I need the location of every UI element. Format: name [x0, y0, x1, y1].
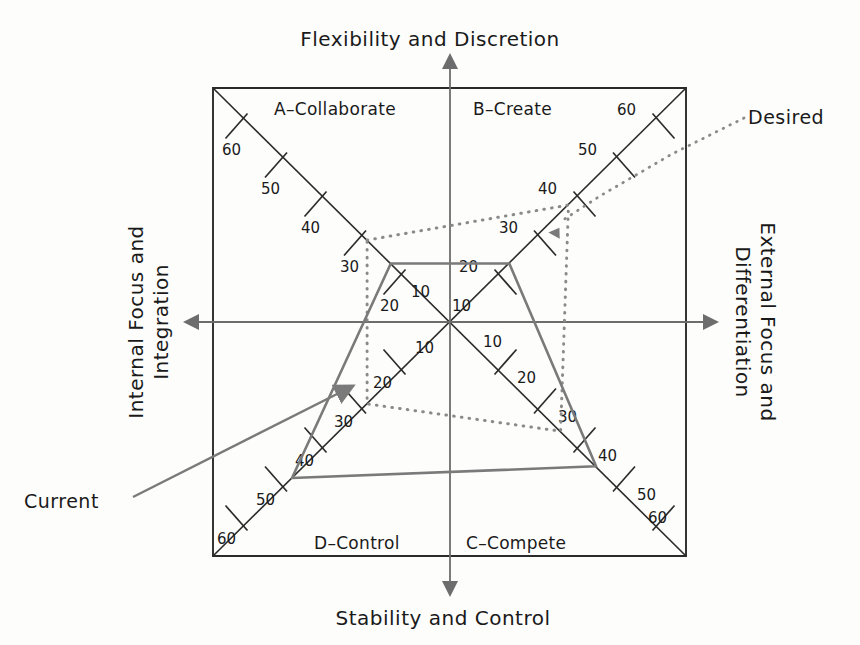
tick-label: 60	[217, 530, 236, 548]
tick-label: 60	[222, 141, 241, 159]
tick-label: 40	[538, 180, 557, 198]
tick-label: 10	[483, 333, 502, 351]
axis-title-right-line1: External Focus and	[756, 222, 780, 421]
tick-label: 50	[637, 486, 656, 504]
quadrant-label-c-compete: C–Compete	[466, 533, 566, 553]
chart-canvas: 60 50 40 30 20 10 60 50 40 30 20 10 10 2…	[0, 0, 860, 645]
legend-current: Current	[24, 390, 345, 512]
series-current-polygon	[292, 264, 596, 479]
axis-title-right: External Focus and Differentiation	[731, 222, 780, 421]
axis-title-left: Internal Focus and Integration	[124, 225, 173, 419]
tick-label: 50	[578, 141, 597, 159]
competing-values-radar-chart: 60 50 40 30 20 10 60 50 40 30 20 10 10 2…	[0, 0, 860, 645]
legend-current-leader-line	[133, 390, 345, 497]
tick-labels-c-compete: 10 20 30 40 50 60	[483, 333, 667, 527]
axis-title-left-line1: Internal Focus and	[124, 225, 148, 419]
tick-label: 20	[380, 297, 399, 315]
tick-label: 10	[411, 283, 430, 301]
quadrant-label-a-collaborate: A–Collaborate	[274, 99, 396, 119]
axis-title-top: Flexibility and Discretion	[300, 27, 560, 51]
tick-label: 10	[415, 339, 434, 357]
axis-title-right-line2: Differentiation	[731, 246, 755, 398]
axis-title-left-line2: Integration	[149, 264, 173, 380]
tick-label: 30	[499, 219, 518, 237]
legend-label-current: Current	[24, 490, 99, 512]
series-desired-polygon	[367, 205, 568, 431]
tick-label: 40	[301, 219, 320, 237]
legend-desired-arrowhead	[548, 227, 564, 242]
quadrant-label-b-create: B–Create	[473, 99, 552, 119]
tick-label: 30	[334, 413, 353, 431]
legend-label-desired: Desired	[748, 106, 824, 128]
tick-label: 60	[648, 509, 667, 527]
quadrant-labels: A–Collaborate B–Create C–Compete D–Contr…	[274, 99, 566, 553]
tick-label: 30	[340, 258, 359, 276]
quadrant-label-d-control: D–Control	[314, 533, 400, 553]
tick-label: 50	[261, 180, 280, 198]
tick-label: 20	[517, 369, 536, 387]
tick-label: 10	[452, 297, 471, 315]
tick-labels-a-collaborate: 60 50 40 30 20 10	[222, 141, 430, 315]
tick-label: 20	[459, 258, 478, 276]
tick-label: 20	[373, 374, 392, 392]
tick-label: 40	[598, 447, 617, 465]
tick-label: 60	[617, 101, 636, 119]
tick-label: 50	[256, 491, 275, 509]
axis-title-bottom: Stability and Control	[336, 606, 551, 630]
